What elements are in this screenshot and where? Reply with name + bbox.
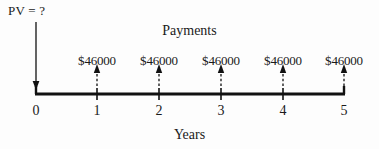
chart-title: Payments — [0, 24, 379, 38]
pv-label: PV = ? — [8, 4, 45, 17]
year-tick-label-0: 0 — [33, 104, 40, 118]
axis-label-years: Years — [0, 128, 379, 142]
payment-amount-label-3: $46000 — [202, 54, 240, 67]
year-tick-label-1: 1 — [94, 104, 101, 118]
year-tick-label-2: 2 — [156, 104, 163, 118]
year-tick-label-5: 5 — [341, 104, 348, 118]
pv-arrow-head-icon — [33, 81, 40, 90]
payment-amount-label-2: $46000 — [140, 54, 178, 67]
timeline-figure: PV = ? Payments $46000 $46000 $46000 $46… — [0, 0, 379, 149]
payment-amount-label-1: $46000 — [78, 54, 116, 67]
payment-amount-label-4: $46000 — [264, 54, 302, 67]
year-tick-label-3: 3 — [218, 104, 225, 118]
payment-amount-label-5: $46000 — [325, 54, 363, 67]
year-tick-label-4: 4 — [280, 104, 287, 118]
